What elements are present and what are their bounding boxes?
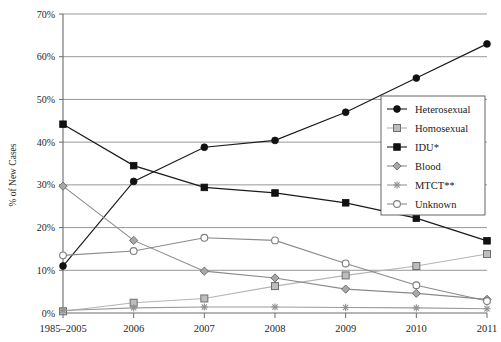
legend-label: IDU* <box>415 142 439 153</box>
legend-label: Blood <box>415 161 441 172</box>
data-point <box>342 304 349 311</box>
legend-marker <box>393 181 400 188</box>
data-point <box>60 263 67 270</box>
data-point <box>342 272 349 279</box>
data-point <box>130 248 137 255</box>
data-point <box>60 252 67 259</box>
data-point <box>413 282 420 289</box>
legend-marker <box>394 201 401 208</box>
data-point <box>60 121 67 128</box>
legend-marker <box>394 106 401 113</box>
data-point <box>484 298 491 305</box>
chart-legend: HeterosexualHomosexualIDU*BloodMTCT**Unk… <box>381 96 485 215</box>
y-axis-title-text: % of New Cases <box>8 143 18 206</box>
legend-label: MTCT** <box>415 180 455 191</box>
data-point <box>271 274 279 282</box>
legend-marker <box>394 144 401 151</box>
data-point <box>342 109 349 116</box>
series-mtct <box>59 303 490 314</box>
y-tick-label: 10% <box>37 265 55 276</box>
x-tick-label: 2006 <box>123 323 144 334</box>
chart-container: 0%10%20%30%40%50%60%70% 1985–20052006200… <box>0 0 501 342</box>
data-point <box>130 304 137 311</box>
x-tick-label: 2009 <box>335 323 356 334</box>
data-point <box>484 238 491 245</box>
data-point <box>342 199 349 206</box>
y-tick-label: 70% <box>37 9 55 20</box>
legend-label: Homosexual <box>415 123 468 134</box>
data-point <box>201 303 208 310</box>
series-line <box>63 238 487 301</box>
data-point <box>413 75 420 82</box>
data-point <box>200 267 208 275</box>
data-point <box>413 263 420 270</box>
data-point <box>272 190 279 197</box>
y-tick-label: 0% <box>42 308 55 319</box>
data-point <box>130 178 137 185</box>
data-point <box>483 305 490 312</box>
data-point <box>413 304 420 311</box>
line-chart: 0%10%20%30%40%50%60%70% 1985–20052006200… <box>0 0 501 342</box>
y-tick-label: 20% <box>37 222 55 233</box>
data-point <box>201 234 208 241</box>
y-axis-title: % of New Cases <box>8 143 18 206</box>
x-tick-label: 2011 <box>477 323 498 334</box>
y-tick-label: 30% <box>37 179 55 190</box>
y-tick-label: 50% <box>37 94 55 105</box>
legend-label: Unknown <box>415 199 457 210</box>
legend-label: Heterosexual <box>415 104 470 115</box>
data-point <box>484 41 491 48</box>
data-point <box>413 215 420 222</box>
legend-marker <box>394 125 401 132</box>
data-point <box>201 295 208 302</box>
data-point <box>484 251 491 258</box>
data-point <box>272 237 279 244</box>
x-tick-label: 1985–2005 <box>39 323 86 334</box>
y-axis-ticks: 0%10%20%30%40%50%60%70% <box>37 9 63 319</box>
data-point <box>59 307 66 314</box>
data-point <box>130 162 137 169</box>
data-point <box>272 137 279 144</box>
x-axis-ticks: 1985–2005200620072008200920102011 <box>39 313 497 334</box>
y-tick-label: 40% <box>37 137 55 148</box>
x-tick-label: 2007 <box>194 323 215 334</box>
data-point <box>342 285 350 293</box>
data-point <box>201 184 208 191</box>
data-point <box>271 303 278 310</box>
data-point <box>201 144 208 151</box>
x-tick-label: 2008 <box>265 323 286 334</box>
data-point <box>342 260 349 267</box>
x-tick-label: 2010 <box>406 323 427 334</box>
data-point <box>272 283 279 290</box>
data-point <box>412 289 420 297</box>
y-tick-label: 60% <box>37 51 55 62</box>
